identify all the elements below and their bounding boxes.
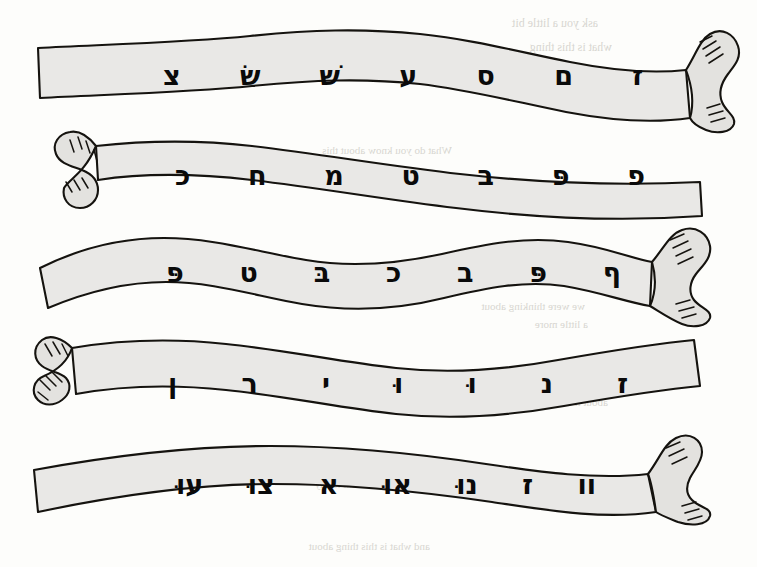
hebrew-letters-tsadi-shuruk: צוּ xyxy=(248,469,275,500)
hebrew-letter-sin: שׂ xyxy=(240,60,260,91)
hebrew-letter-kaf: כ xyxy=(386,257,401,288)
hebrew-letter-vav-dagesh: וּ xyxy=(394,368,403,399)
hebrew-letter-zayin: ז xyxy=(617,368,628,399)
hebrew-letter-pe-dagesh: פּ xyxy=(552,160,570,191)
hebrew-letter-zayin: ז xyxy=(632,60,643,91)
hebrew-letter-final-fe: ף xyxy=(603,257,621,288)
hebrew-letter-shin: שׁ xyxy=(320,60,340,91)
hebrew-letter-vet: ב xyxy=(457,257,473,288)
scroll-row-5-letters: וו ז נוּ אוּ א צוּ עוּ xyxy=(176,466,596,502)
hebrew-letter-alef: א xyxy=(319,469,339,500)
hebrew-letter-kaf: כ xyxy=(175,160,190,191)
scroll-row-2-letters: פ פּ ב ט מ ח כ xyxy=(175,158,645,192)
hebrew-letters-nun-shuruk: נוּ xyxy=(456,469,478,500)
hebrew-letter-mem: מ xyxy=(324,160,344,191)
hebrew-letter-het: ח xyxy=(248,160,267,191)
hebrew-letter-resh: ר xyxy=(241,368,257,399)
hebrew-letter-yod: י xyxy=(322,368,330,399)
hebrew-letters-double-vav: וו xyxy=(577,469,596,500)
hebrew-letters-alef-shuruk: אוּ xyxy=(383,469,412,500)
scroll-worksheet-page: ask you a little bit what is this thing … xyxy=(0,0,757,567)
hebrew-letter-samekh: ס xyxy=(477,60,495,91)
hebrew-letter-ayin: ע xyxy=(399,60,417,91)
hebrew-letter-tet: ט xyxy=(240,257,258,288)
scroll-row-4-letters: ז נ וּ וּ י ר ן xyxy=(168,366,628,400)
hebrew-letter-tsadi: צ xyxy=(163,60,181,91)
hebrew-letter-final-nun: ן xyxy=(168,368,177,399)
hebrew-letter-tet: ט xyxy=(402,160,420,191)
hebrew-letter-final-mem: ם xyxy=(554,60,573,91)
scroll-row-1-letters: ז ם ס ע שׁ שׂ צ xyxy=(163,58,643,92)
hebrew-letter-nun: נ xyxy=(541,368,553,399)
hebrew-letter-zayin: ז xyxy=(522,469,533,500)
hebrew-letter-vet: ב xyxy=(478,160,494,191)
scroll-row-3-letters: ף פּ ב כ בּ ט פּ xyxy=(166,255,621,289)
hebrew-letter-vav-dagesh: וּ xyxy=(467,368,476,399)
hebrew-letters-ayin-shuruk: עוּ xyxy=(176,469,203,500)
hebrew-letter-pe-dagesh: פּ xyxy=(166,257,184,288)
hebrew-letter-bet-dagesh: בּ xyxy=(314,257,330,288)
hebrew-letter-fe: פ xyxy=(627,160,645,191)
hebrew-letter-pe-dagesh: פּ xyxy=(529,257,547,288)
